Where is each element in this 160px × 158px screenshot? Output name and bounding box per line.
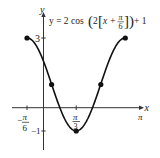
x-tick-label-neg-pi6: − π 6 [17,112,29,133]
x-axis-arrow-icon [139,106,144,110]
svg-text:]): ]) [124,13,134,30]
pi3-numerator: π [73,112,78,122]
neg-pi6-denominator: 6 [23,123,28,133]
point-pi12 [49,82,54,87]
cosine-graph: y x 3 −1 − π 6 π 3 π y = 2 cos ( 2 [ x +… [0,0,160,158]
point-7pi12 [98,82,103,87]
point-neg-pi6 [24,35,29,40]
svg-text:6: 6 [119,22,123,31]
point-5pi6 [123,35,128,40]
svg-text:−: − [17,115,22,125]
y-axis-label: y [39,4,45,15]
y-tick-label-3: 3 [35,33,40,44]
x-tick-label-pi3: π 3 [73,112,81,132]
svg-text:+ 1: + 1 [134,16,147,26]
pi3-denominator: 3 [74,122,78,131]
svg-text:π: π [119,13,124,22]
y-tick-label-neg1: −1 [31,126,41,136]
neg-pi6-numerator: π [23,112,28,122]
x-tick-label-pi: π [138,112,143,122]
x-axis-label: x [144,102,150,113]
svg-text:y = 2 cos: y = 2 cos [49,16,84,26]
equation-label: y = 2 cos ( 2 [ x + π 6 ]) + 1 [49,13,147,31]
svg-text:x +: x + [102,16,116,26]
